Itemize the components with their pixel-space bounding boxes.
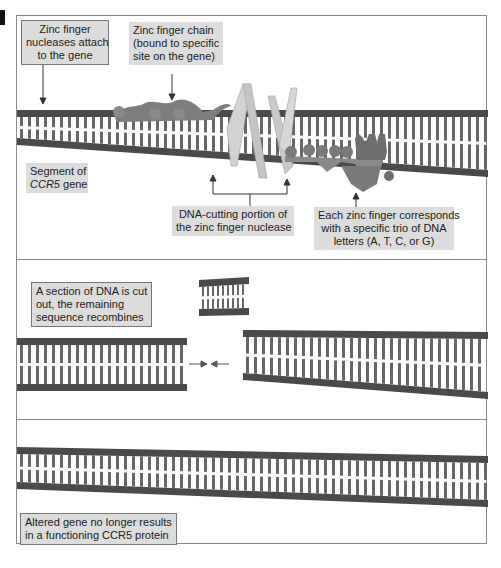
dna-base: [140, 366, 143, 384]
dna-base: [436, 117, 439, 140]
dna-base: [156, 366, 159, 384]
dna-base: [270, 337, 273, 354]
dna-base: [454, 339, 457, 363]
dna-base: [108, 132, 111, 144]
dna-base: [406, 338, 409, 360]
dna-base: [76, 117, 79, 128]
dna-base: [20, 345, 23, 363]
dna-base: [60, 455, 63, 468]
dna-base: [156, 473, 159, 487]
dna-base: [20, 366, 23, 384]
dna-base: [412, 462, 415, 478]
zinc-finger-chain-protein: [113, 100, 231, 122]
panel-zinc-finger-binding: Zinc finger nucleases attach to the gene…: [17, 16, 486, 259]
dna-base: [446, 339, 449, 363]
dna-base: [308, 117, 311, 136]
dna-base: [350, 361, 353, 381]
dna-base: [228, 458, 231, 473]
dna-base: [372, 461, 375, 477]
recombine-arrows: [189, 361, 229, 367]
dna-base: [180, 366, 183, 384]
dna-base: [422, 338, 425, 361]
dna-base: [478, 367, 481, 392]
dna-base: [388, 461, 391, 477]
label-line: (bound to specific: [133, 37, 219, 50]
dna-base: [196, 475, 199, 489]
dna-base: [332, 479, 335, 495]
label-line: DNA-cutting portion of: [176, 208, 290, 221]
dna-base: [476, 483, 479, 500]
dna-base: [276, 477, 279, 492]
dna-base: [148, 133, 151, 146]
dna-base: [262, 357, 265, 374]
dna-base: [212, 136, 215, 152]
label-line: nucleases attach: [26, 36, 104, 49]
label-line: the zinc finger nuclease: [176, 221, 290, 234]
dna-base: [484, 145, 487, 170]
dna-base: [116, 456, 119, 469]
dna-base: [132, 473, 135, 487]
dna-base: [172, 345, 175, 363]
dna-base: [278, 337, 281, 355]
dna-base: [396, 461, 399, 477]
dna-base: [202, 299, 204, 309]
dna-base: [76, 366, 79, 384]
dna-base: [452, 117, 455, 141]
label-line: Zinc finger: [26, 23, 104, 36]
dna-base: [334, 338, 337, 358]
label-line: Altered gene no longer results: [25, 516, 172, 529]
dna-base: [420, 117, 423, 140]
dna-backbone-bottom: [199, 308, 249, 316]
dna-base: [180, 135, 183, 150]
dna-base: [358, 338, 361, 358]
dna-base: [324, 117, 327, 136]
dna-base: [84, 366, 87, 384]
dna-base: [116, 132, 119, 144]
dna-base: [420, 462, 423, 478]
dna-base: [232, 298, 234, 308]
dna-base: [478, 339, 481, 364]
dna-base: [246, 337, 249, 354]
dna-base: [300, 117, 303, 136]
dna-base: [108, 345, 111, 363]
dna-base: [164, 345, 167, 363]
dna-base: [156, 345, 159, 363]
dna-base: [52, 366, 55, 384]
dna-base: [340, 117, 343, 137]
dna-base: [246, 357, 249, 374]
dna-base: [348, 117, 351, 137]
dna-base: [68, 455, 71, 468]
dna-base: [348, 460, 351, 476]
dna-base: [270, 358, 273, 375]
dna-base: [308, 478, 311, 493]
dna-base: [68, 366, 71, 384]
dna-base: [108, 472, 111, 485]
dna-base: [300, 139, 303, 158]
dna-base: [92, 132, 95, 144]
dna-base: [388, 117, 391, 139]
dna-base: [244, 458, 247, 473]
diagram-frame: Zinc finger nucleases attach to the gene…: [16, 15, 487, 544]
dna-base: [76, 471, 79, 484]
dna-base: [124, 133, 127, 146]
dna-base: [404, 142, 407, 164]
dna-backbone-top: [17, 338, 187, 345]
dna-base: [404, 117, 407, 139]
dna-base: [332, 460, 335, 476]
dna-base: [444, 462, 447, 479]
dna-base: [252, 476, 255, 491]
dna-base: [148, 345, 151, 363]
dna-base: [292, 477, 295, 492]
dna-base: [204, 458, 207, 472]
dna-base: [36, 345, 39, 363]
dna-base: [164, 366, 167, 384]
dna-base: [244, 137, 247, 154]
dna-base: [60, 117, 63, 127]
dna-base: [388, 142, 391, 164]
dna-base: [172, 457, 175, 471]
dna-base: [140, 133, 143, 146]
label-zinc-finger-chain: Zinc finger chain (bound to specific sit…: [129, 22, 223, 65]
dna-base: [28, 129, 31, 138]
dna-base: [84, 345, 87, 363]
dna-base: [452, 482, 455, 499]
